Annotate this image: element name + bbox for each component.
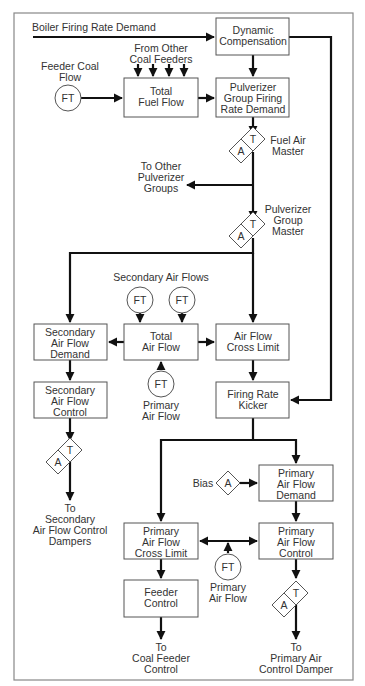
auto-manual-station-icon-secondary-air: T A <box>46 438 82 474</box>
svg-text:T: T <box>293 587 300 599</box>
svg-text:Coal Feeders: Coal Feeders <box>129 53 192 65</box>
flow-transmitter-icon-primary-air-1: FT <box>148 371 174 397</box>
svg-text:Master: Master <box>272 145 305 157</box>
block-dynamic-compensation: Dynamic Compensation <box>216 18 289 55</box>
primary-air-flow-label-2: Primary Air Flow <box>209 581 247 604</box>
svg-text:Control: Control <box>279 547 313 559</box>
svg-text:Demand: Demand <box>50 348 90 360</box>
svg-text:Rate Demand: Rate Demand <box>221 103 286 115</box>
svg-text:Air Flow: Air Flow <box>142 341 180 353</box>
to-other-pulverizer-groups-label: To Other Pulverizer Groups <box>138 160 185 194</box>
bias-station-icon: A <box>216 471 240 495</box>
svg-text:T: T <box>250 218 257 230</box>
svg-text:Flow: Flow <box>59 71 82 83</box>
svg-text:A: A <box>224 477 231 489</box>
bias-label: Bias <box>193 477 213 489</box>
flow-transmitter-icon-secondary-air-1: FT <box>127 287 153 313</box>
svg-text:Master: Master <box>272 225 305 237</box>
boiler-firing-rate-demand-label: Boiler Firing Rate Demand <box>32 21 156 33</box>
svg-text:A: A <box>54 456 61 468</box>
block-secondary-air-flow-demand: Secondary Air Flow Demand <box>34 324 107 360</box>
fuel-air-master-label: Fuel Air Master <box>270 134 306 157</box>
svg-text:Control Damper: Control Damper <box>259 663 334 675</box>
svg-text:Control: Control <box>144 663 178 675</box>
svg-text:A: A <box>280 599 287 611</box>
svg-text:FT: FT <box>134 294 147 306</box>
control-diagram: Boiler Firing Rate Demand Feeder Coal Fl… <box>0 0 365 686</box>
svg-text:Compensation: Compensation <box>219 35 287 47</box>
svg-text:FT: FT <box>62 92 75 104</box>
primary-air-flow-label-1: Primary Air Flow <box>142 399 180 422</box>
svg-text:A: A <box>237 230 244 242</box>
svg-text:T: T <box>250 133 257 145</box>
block-primary-air-flow-demand: Primary Air Flow Demand <box>259 465 333 501</box>
flow-transmitter-icon-primary-air-2: FT <box>215 554 241 580</box>
flow-transmitter-icon-feeder-coal: FT <box>55 85 81 111</box>
svg-text:Demand: Demand <box>276 489 316 501</box>
to-secondary-dampers-label: To Secondary Air Flow Control Dampers <box>33 502 108 547</box>
to-primary-air-damper-label: To Primary Air Control Damper <box>259 641 334 675</box>
svg-text:Kicker: Kicker <box>238 399 268 411</box>
svg-text:Control: Control <box>144 597 178 609</box>
svg-text:FT: FT <box>155 378 168 390</box>
feeder-coal-flow-label: Feeder Coal Flow <box>41 60 99 83</box>
from-other-coal-feeders-label: From Other Coal Feeders <box>129 42 192 65</box>
block-primary-air-flow-control: Primary Air Flow Control <box>259 523 333 559</box>
pulverizer-group-master-label: Pulverizer Group Master <box>265 203 312 237</box>
block-feeder-control: Feeder Control <box>124 580 198 617</box>
auto-manual-station-icon-primary-air: T A <box>272 581 308 617</box>
to-coal-feeder-control-label: To Coal Feeder Control <box>132 641 190 675</box>
svg-text:Fuel Flow: Fuel Flow <box>138 96 184 108</box>
block-pulverizer-group-firing-rate-demand: Pulverizer Group Firing Rate Demand <box>216 78 289 117</box>
svg-text:Control: Control <box>53 406 87 418</box>
svg-text:T: T <box>67 444 74 456</box>
svg-text:A: A <box>237 145 244 157</box>
block-total-air-flow: Total Air Flow <box>124 324 198 360</box>
block-firing-rate-kicker: Firing Rate Kicker <box>216 382 289 418</box>
secondary-air-flows-label: Secondary Air Flows <box>113 271 209 283</box>
svg-text:FT: FT <box>176 294 189 306</box>
block-primary-air-flow-cross-limit: Primary Air Flow Cross Limit <box>124 523 198 559</box>
auto-manual-station-icon-pulverizer-group-master: T A <box>229 212 265 248</box>
svg-text:Cross Limit: Cross Limit <box>135 547 188 559</box>
svg-text:Dampers: Dampers <box>49 535 92 547</box>
svg-text:Cross Limit: Cross Limit <box>227 341 280 353</box>
block-total-fuel-flow: Total Fuel Flow <box>124 78 198 117</box>
svg-text:FT: FT <box>222 561 235 573</box>
auto-manual-station-icon-fuel-air-master: T A <box>229 127 265 163</box>
svg-text:Air Flow: Air Flow <box>209 592 247 604</box>
block-air-flow-cross-limit: Air Flow Cross Limit <box>216 324 289 360</box>
svg-text:Groups: Groups <box>144 182 178 194</box>
svg-text:Air Flow: Air Flow <box>142 410 180 422</box>
flow-transmitter-icon-secondary-air-2: FT <box>169 287 195 313</box>
block-secondary-air-flow-control: Secondary Air Flow Control <box>34 382 107 418</box>
